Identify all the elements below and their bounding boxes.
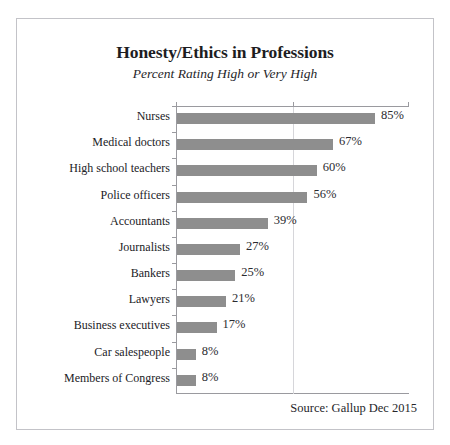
bar[interactable] — [177, 165, 317, 176]
bar-value-label: 21% — [232, 291, 255, 306]
bar-value-label: 85% — [381, 108, 404, 123]
category-label-wrap: Members of Congress — [20, 368, 170, 394]
category-label: Bankers — [20, 266, 170, 281]
bar-row[interactable]: Nurses85% — [176, 106, 409, 132]
bar-value-label: 67% — [339, 134, 362, 149]
category-label: Accountants — [20, 214, 170, 229]
bar-row[interactable]: Members of Congress8% — [176, 368, 409, 394]
scan-artifact-fragment-b: · · · — [243, 0, 260, 4]
category-label: Lawyers — [20, 292, 170, 307]
bar-row[interactable]: Bankers25% — [176, 263, 409, 289]
bar-value-label: 27% — [246, 239, 269, 254]
scan-artifact: · · · · · · — [0, 0, 450, 14]
chart-title: Honesty/Ethics in Professions — [17, 42, 433, 63]
bar[interactable] — [177, 375, 196, 386]
bar-value-label: 8% — [202, 344, 219, 359]
category-label: Journalists — [20, 240, 170, 255]
bar-value-label: 56% — [313, 187, 336, 202]
bar-row[interactable]: Journalists27% — [176, 237, 409, 263]
category-label-wrap: Lawyers — [20, 289, 170, 315]
bar-value-label: 8% — [202, 370, 219, 385]
category-label-wrap: Bankers — [20, 263, 170, 289]
bar[interactable] — [177, 349, 196, 360]
scan-artifact-fragment-a: · · — [100, 0, 110, 4]
bar-row[interactable]: High school teachers60% — [176, 158, 409, 184]
category-label-wrap: Police officers — [20, 185, 170, 211]
bar[interactable] — [177, 218, 268, 229]
category-label-wrap: High school teachers — [20, 158, 170, 184]
category-label: Police officers — [20, 188, 170, 203]
category-label: Members of Congress — [20, 371, 170, 386]
bar-row[interactable]: Business executives17% — [176, 315, 409, 341]
bar-value-label: 17% — [223, 317, 246, 332]
bar[interactable] — [177, 322, 217, 333]
category-label-wrap: Car salespeople — [20, 342, 170, 368]
bar[interactable] — [177, 270, 235, 281]
category-label: Business executives — [20, 318, 170, 333]
category-label-wrap: Medical doctors — [20, 132, 170, 158]
bar-value-label: 60% — [323, 160, 346, 175]
bar-value-label: 25% — [241, 265, 264, 280]
source-note: Source: Gallup Dec 2015 — [290, 401, 417, 416]
bar-row[interactable]: Police officers56% — [176, 185, 409, 211]
chart-figure-frame: Honesty/Ethics in Professions Percent Ra… — [16, 18, 434, 430]
category-label-wrap: Nurses — [20, 106, 170, 132]
chart-subtitle: Percent Rating High or Very High — [17, 66, 433, 82]
bar-row[interactable]: Car salespeople8% — [176, 342, 409, 368]
scan-artifact-fragment-c: · — [330, 0, 334, 4]
category-label: Nurses — [20, 109, 170, 124]
category-label-wrap: Business executives — [20, 315, 170, 341]
bar-row[interactable]: Lawyers21% — [176, 289, 409, 315]
category-label: Car salespeople — [20, 345, 170, 360]
bar-value-label: 39% — [274, 213, 297, 228]
bar[interactable] — [177, 244, 240, 255]
bar[interactable] — [177, 192, 307, 203]
category-label: High school teachers — [20, 161, 170, 176]
bar[interactable] — [177, 113, 375, 124]
bar[interactable] — [177, 139, 333, 150]
category-label-wrap: Accountants — [20, 211, 170, 237]
plot-area: Nurses85%Medical doctors67%High school t… — [176, 106, 409, 394]
category-label-wrap: Journalists — [20, 237, 170, 263]
bar-row[interactable]: Accountants39% — [176, 211, 409, 237]
category-label: Medical doctors — [20, 135, 170, 150]
bar-row[interactable]: Medical doctors67% — [176, 132, 409, 158]
bar[interactable] — [177, 296, 226, 307]
